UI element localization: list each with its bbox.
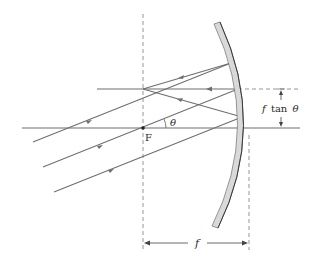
- focal-point-label: F: [145, 132, 152, 143]
- concave-mirror: [212, 22, 244, 228]
- angle-arc: [164, 119, 166, 128]
- arrow-up-icon: [279, 90, 283, 95]
- incident-ray-1: [33, 63, 231, 142]
- angle-label: θ: [170, 117, 176, 128]
- reflected-ray-1: [143, 63, 231, 89]
- focal-length-label: f: [194, 237, 201, 250]
- arrow-right-icon: [242, 241, 248, 246]
- mirror-diagram: F θ f tan θ f: [0, 0, 315, 263]
- arrow-icon: [206, 87, 212, 92]
- focal-point: [141, 126, 145, 130]
- arrow-down-icon: [279, 122, 283, 127]
- height-label: f tan θ: [261, 103, 299, 114]
- arrow-left-icon: [144, 241, 150, 246]
